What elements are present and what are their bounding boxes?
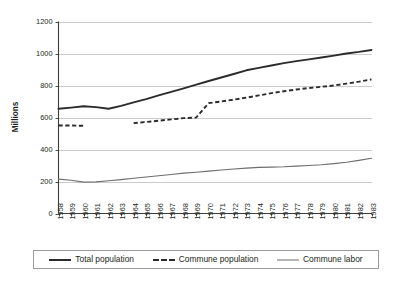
y-axis-tick-label: 1000 xyxy=(36,49,52,58)
x-axis-tick-label: 1960 xyxy=(81,203,90,219)
x-axis-tick-label: 1966 xyxy=(156,203,165,219)
y-axis-tick-labels: 020040060080010001200 xyxy=(36,17,52,218)
legend-swatch-icon xyxy=(49,256,71,263)
x-axis-tick-label: 1967 xyxy=(168,203,177,219)
x-axis-tick-label: 1983 xyxy=(369,203,378,219)
legend-entry-label: Commune population xyxy=(179,255,259,263)
x-axis-tick-label: 1981 xyxy=(343,203,352,219)
x-axis-tick-label: 1962 xyxy=(106,203,115,219)
x-axis-tick-label: 1959 xyxy=(68,203,77,219)
x-axis-tick-label: 1965 xyxy=(143,203,152,219)
legend-entry-label: Commune labor xyxy=(303,255,363,263)
legend-entry-commune-labor[interactable]: Commune labor xyxy=(277,255,363,263)
series-line-total-population xyxy=(59,50,372,109)
x-axis-tick-label: 1975 xyxy=(268,203,277,219)
x-axis-tick-label: 1980 xyxy=(331,203,340,219)
y-axis-tick-label: 800 xyxy=(40,81,52,90)
x-axis-tick-label: 1968 xyxy=(181,203,190,219)
y-axis-tick-label: 200 xyxy=(40,177,52,186)
y-axis-tick-label: 0 xyxy=(48,209,52,218)
series-line-commune-labor xyxy=(59,158,372,182)
x-axis-tick-label: 1963 xyxy=(118,203,127,219)
x-axis-tick-label: 1974 xyxy=(256,203,265,219)
legend-swatch-icon xyxy=(153,256,175,263)
legend-entry-label: Total population xyxy=(75,255,134,263)
x-axis-tick-label: 1978 xyxy=(306,203,315,219)
x-axis-tick-label: 1971 xyxy=(218,203,227,219)
x-axis-tick-label: 1961 xyxy=(93,203,102,219)
series-line-commune-population xyxy=(134,79,372,123)
x-axis-tick-label: 1973 xyxy=(243,203,252,219)
series-lines-group xyxy=(59,50,372,182)
y-axis-tick-label: 400 xyxy=(40,145,52,154)
x-axis-tick-label: 1969 xyxy=(193,203,202,219)
y-axis-title: Millions xyxy=(11,101,20,132)
legend-entry-total-population[interactable]: Total population xyxy=(49,255,134,263)
y-axis-tick-label: 600 xyxy=(40,113,52,122)
x-axis-tick-label: 1958 xyxy=(56,203,65,219)
x-axis-tick-label: 1964 xyxy=(131,203,140,219)
line-chart-figure: 020040060080010001200 195819591960196119… xyxy=(0,0,411,281)
x-axis-tick-label: 1982 xyxy=(356,203,365,219)
x-axis-tick-label: 1972 xyxy=(231,203,240,219)
x-axis-tick-label: 1979 xyxy=(318,203,327,219)
x-axis-tick-label: 1976 xyxy=(281,203,290,219)
chart-legend: Total populationCommune populationCommun… xyxy=(33,250,379,269)
chart-plot-area: 020040060080010001200 195819591960196119… xyxy=(0,0,411,281)
legend-swatch-icon xyxy=(277,256,299,263)
x-axis-tick-label: 1970 xyxy=(206,203,215,219)
legend-entry-commune-population[interactable]: Commune population xyxy=(153,255,259,263)
x-axis-tick-labels: 1958195919601961196219631964196519661967… xyxy=(56,203,378,219)
y-axis-tick-label: 1200 xyxy=(36,17,52,26)
x-axis-tick-label: 1977 xyxy=(293,203,302,219)
